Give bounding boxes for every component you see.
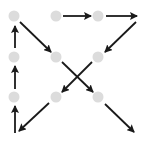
- arrow-9: [105, 22, 136, 52]
- dot-r2c2: [51, 52, 62, 63]
- arrow-6: [105, 104, 134, 132]
- nine-dots-diagram: [0, 0, 145, 142]
- diagram-canvas: [0, 0, 145, 142]
- dot-r1c3: [93, 11, 104, 22]
- arrows-layer: [15, 16, 137, 133]
- dot-r1c1: [9, 11, 20, 22]
- dot-r3c2: [51, 92, 62, 103]
- dot-r1c2: [51, 11, 62, 22]
- arrow-4: [20, 22, 51, 52]
- dot-r2c1: [9, 52, 20, 63]
- dot-r3c3: [93, 92, 104, 103]
- arrow-11: [19, 103, 49, 131]
- dot-r3c1: [9, 92, 20, 103]
- dot-r2c3: [93, 52, 104, 63]
